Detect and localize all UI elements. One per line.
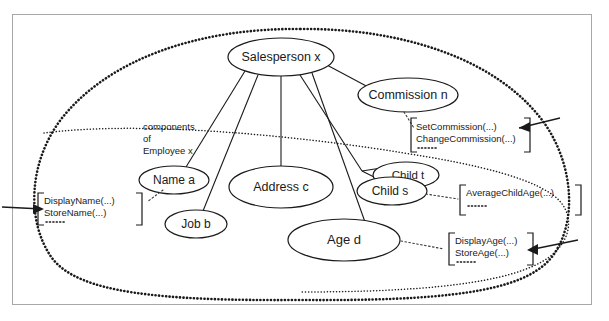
child-bracket-right [575, 185, 581, 215]
node-salesperson[interactable]: Salesperson x [228, 38, 334, 76]
node-name[interactable]: Name a [139, 166, 209, 194]
node-name-label: Name a [153, 173, 195, 187]
node-commission-label: Commission n [368, 88, 447, 102]
edge-salesperson-childfork [300, 75, 362, 171]
method-box-name[interactable]: DisplayName(...) StoreName(...) [2, 190, 163, 225]
components-label-line-2: of [143, 133, 151, 144]
commission-method-line-2: ChangeCommission(...) [416, 133, 516, 144]
node-age[interactable]: Age d [288, 219, 400, 261]
edge-salesperson-commission [325, 64, 370, 88]
age-method-line-2: StoreAge(...) [455, 247, 509, 258]
leader-childs-to-methods [426, 194, 458, 199]
method-box-commission[interactable]: SetCommission(...) ChangeCommission(...) [404, 112, 560, 152]
name-method-line-1: DisplayName(...) [44, 195, 115, 206]
diagram-svg: Address c Age d Job b Name a Child t C [0, 0, 609, 321]
node-address-label: Address c [253, 180, 309, 194]
node-child-s[interactable]: Child s [357, 177, 427, 205]
name-method-line-2: StoreName(...) [44, 207, 106, 218]
node-address[interactable]: Address c [229, 166, 333, 208]
inner-component-boundary [44, 128, 569, 292]
edge-salesperson-name [186, 71, 245, 167]
node-commission[interactable]: Commission n [358, 78, 458, 112]
components-label-line-1: components [143, 121, 195, 132]
age-method-line-1: DisplayAge(...) [455, 235, 517, 246]
diagram-canvas: Address c Age d Job b Name a Child t C [0, 0, 609, 321]
node-salesperson-label: Salesperson x [241, 50, 321, 64]
name-bracket-right [136, 193, 142, 225]
node-job-label: Job b [181, 217, 211, 231]
child-method-line-1: AverageChildAge(...) [466, 187, 554, 198]
method-box-age[interactable]: DisplayAge(...) StoreAge(...) [401, 233, 578, 265]
components-label-line-3: Employee x [143, 145, 193, 156]
components-of-employee-label: components of Employee x [143, 121, 195, 156]
commission-method-line-1: SetCommission(...) [416, 121, 497, 132]
node-age-label: Age d [327, 232, 361, 247]
node-child-s-label: Child s [372, 184, 409, 198]
node-job[interactable]: Job b [165, 210, 227, 238]
leader-commission-to-methods [404, 112, 414, 128]
leader-age-to-methods [401, 241, 444, 249]
